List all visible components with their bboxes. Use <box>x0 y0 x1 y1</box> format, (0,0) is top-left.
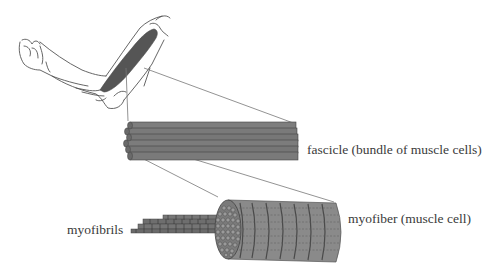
arm-illustration <box>19 16 170 109</box>
biceps-muscle <box>100 29 157 92</box>
fascicle-bundle <box>124 122 299 160</box>
myofiber-cylinder <box>215 200 341 262</box>
myofibril-strands <box>131 215 218 233</box>
myofiber-label: myofiber (muscle cell) <box>348 212 471 226</box>
fascicle-label: fascicle (bundle of muscle cells) <box>307 143 482 157</box>
myofibrils-label: myofibrils <box>67 223 123 237</box>
